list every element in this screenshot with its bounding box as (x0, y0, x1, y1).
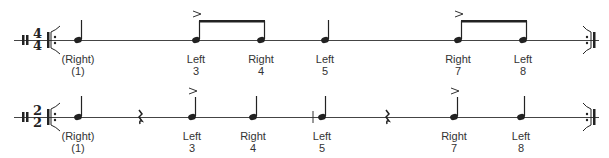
note-icon (320, 20, 330, 44)
staff-row-2: 2 2 (Right)(1) Left3 (0, 79, 609, 158)
repeat-end-icon (583, 26, 596, 54)
note-icon (191, 21, 201, 44)
note-label: Right7 (424, 130, 484, 154)
svg-text:4: 4 (33, 38, 42, 53)
svg-text:2: 2 (33, 115, 42, 130)
quarter-rest-icon (386, 110, 389, 124)
note-icon (516, 96, 526, 121)
time-signature-icon: 4 4 (33, 26, 42, 53)
accent-icon (455, 11, 463, 17)
note-label: Left8 (493, 53, 553, 77)
note-icon (256, 21, 266, 44)
note-label: Left3 (162, 130, 222, 154)
note-label: (Right)(1) (48, 130, 108, 154)
note-icon (73, 20, 83, 44)
note-icon (248, 96, 258, 121)
accent-icon (451, 88, 459, 94)
repeat-end-icon (583, 103, 596, 131)
note-label: Left5 (295, 53, 355, 77)
note-label: (Right)(1) (48, 53, 108, 77)
note-label: Right7 (428, 53, 488, 77)
note-icon (518, 21, 528, 44)
time-signature-icon: 2 2 (33, 103, 42, 130)
double-barline-icon (22, 35, 29, 45)
repeat-start-icon (47, 103, 60, 131)
note-label: Left5 (292, 130, 352, 154)
quarter-rest-icon (139, 110, 142, 124)
note-icon (453, 21, 463, 44)
note-label: Left3 (166, 53, 226, 77)
note-label: Right4 (223, 130, 283, 154)
note-icon (449, 97, 459, 121)
repeat-start-icon (47, 26, 60, 54)
accent-icon (193, 11, 201, 17)
beam (199, 20, 265, 23)
beam (461, 20, 527, 23)
staff-row-1: 4 4 (Right (0, 0, 609, 79)
note-label: Right4 (231, 53, 291, 77)
accent-icon (189, 88, 197, 94)
note-icon (317, 96, 327, 121)
note-label: Left8 (491, 130, 551, 154)
note-icon (73, 96, 83, 121)
double-barline-icon (22, 112, 29, 122)
note-icon (187, 97, 197, 121)
